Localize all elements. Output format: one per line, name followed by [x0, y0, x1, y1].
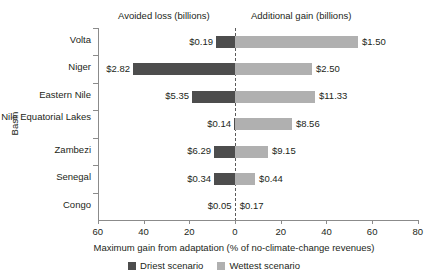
x-axis-tick: [144, 220, 145, 224]
x-axis-tick-label: 20: [169, 226, 209, 237]
x-axis-tick: [326, 220, 327, 224]
category-label-senegal: Senegal: [1, 171, 91, 182]
chart-row: Congo$0.05$0.17: [0, 193, 428, 220]
legend-label: Wettest scenario: [229, 260, 300, 271]
bar-wettest-senegal: [235, 173, 255, 185]
value-label-driest-niger: $2.82: [70, 63, 130, 74]
legend-item-wettest[interactable]: Wettest scenario: [217, 260, 300, 271]
value-label-driest-zambezi: $6.29: [151, 145, 211, 156]
category-label-volta: Volta: [1, 34, 91, 45]
bar-wettest-zambezi: [235, 146, 268, 158]
value-label-driest-eastern-nile: $5.35: [129, 90, 189, 101]
panel-header-additional-gain: Additional gain (billions): [251, 10, 351, 21]
y-axis-tick: [93, 55, 98, 56]
chart-container: Avoided loss (billions) Additional gain …: [0, 0, 428, 278]
bar-driest-senegal: [214, 173, 235, 185]
chart-row: Volta$0.19$1.50: [0, 28, 428, 55]
bar-wettest-niger: [235, 63, 312, 75]
legend-swatch-icon: [217, 262, 225, 270]
x-axis-tick: [372, 220, 373, 224]
chart-row: Senegal$0.34$0.44: [0, 165, 428, 192]
value-label-wettest-zambezi: $9.15: [272, 145, 296, 156]
x-axis-tick-label: 60: [352, 226, 392, 237]
value-label-wettest-volta: $1.50: [362, 36, 386, 47]
value-label-driest-nile-equatorial-lakes: $0.14: [171, 118, 231, 129]
value-label-wettest-niger: $2.50: [316, 63, 340, 74]
y-axis-tick: [93, 28, 98, 29]
value-label-wettest-eastern-nile: $11.33: [319, 90, 347, 101]
legend-item-driest[interactable]: Driest scenario: [128, 260, 203, 271]
category-label-nile-equatorial-lakes: Nile Equatorial Lakes: [1, 111, 91, 122]
x-axis-tick: [189, 220, 190, 224]
x-axis-tick: [98, 220, 99, 224]
chart-row: Zambezi$6.29$9.15: [0, 138, 428, 165]
value-label-driest-congo: $0.05: [172, 200, 232, 211]
category-label-congo: Congo: [1, 199, 91, 210]
value-label-wettest-senegal: $0.44: [259, 173, 283, 184]
bar-driest-niger: [133, 63, 235, 75]
value-label-wettest-congo: $0.17: [240, 200, 264, 211]
bar-wettest-volta: [235, 36, 358, 48]
value-label-wettest-nile-equatorial-lakes: $8.56: [296, 118, 320, 129]
y-axis-tick: [93, 193, 98, 194]
category-label-eastern-nile: Eastern Nile: [1, 89, 91, 100]
value-label-driest-senegal: $0.34: [151, 173, 211, 184]
chart-legend: Driest scenarioWettest scenario: [0, 260, 428, 271]
y-axis-tick: [93, 110, 98, 111]
bar-wettest-nile-equatorial-lakes: [235, 118, 292, 130]
panel-header-avoided-loss: Avoided loss (billions): [118, 10, 210, 21]
x-axis-tick: [235, 220, 236, 224]
bar-wettest-eastern-nile: [235, 91, 315, 103]
x-axis-tick-label: 40: [306, 226, 346, 237]
chart-row: Niger$2.82$2.50: [0, 55, 428, 82]
x-axis-tick-label: 0: [215, 226, 255, 237]
x-axis-tick-label: 60: [78, 226, 118, 237]
x-axis-tick-label: 40: [124, 226, 164, 237]
bar-driest-eastern-nile: [192, 91, 235, 103]
bar-driest-volta: [216, 36, 235, 48]
chart-row: Nile Equatorial Lakes$0.14$8.56: [0, 110, 428, 137]
x-axis-title: Maximum gain from adaptation (% of no-cl…: [0, 242, 428, 253]
x-axis-line: [98, 220, 419, 221]
category-label-zambezi: Zambezi: [1, 144, 91, 155]
legend-swatch-icon: [128, 262, 136, 270]
legend-label: Driest scenario: [140, 260, 203, 271]
x-axis-tick-label: 80: [398, 226, 428, 237]
x-axis-tick-label: 20: [261, 226, 301, 237]
value-label-driest-volta: $0.19: [153, 36, 213, 47]
y-axis-tick: [93, 138, 98, 139]
chart-row: Eastern Nile$5.35$11.33: [0, 83, 428, 110]
bar-driest-zambezi: [214, 146, 235, 158]
y-axis-tick: [93, 83, 98, 84]
x-axis-tick: [418, 220, 419, 224]
x-axis-tick: [281, 220, 282, 224]
y-axis-tick: [93, 165, 98, 166]
